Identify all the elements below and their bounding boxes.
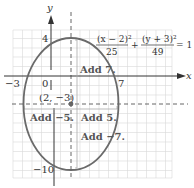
bracket-horizontal	[24, 106, 117, 109]
x-axis-arrow-icon	[177, 73, 186, 79]
eq-term2-numerator: (y + 3)²	[142, 34, 177, 44]
eq-term2-denominator: 49	[152, 47, 164, 57]
tick-x-left: −3	[5, 78, 20, 89]
annotation-add-left: Add −5.	[29, 112, 74, 123]
y-axis-label: y	[46, 2, 53, 13]
center-label: (2, −3)	[39, 92, 74, 103]
origin-label: 0	[42, 78, 48, 89]
eq-plus: +	[131, 40, 139, 50]
annotation-add-down: Add −7.	[80, 131, 125, 142]
annotation-add-right: Add 5.	[80, 112, 117, 123]
x-axis-label: x	[186, 70, 192, 81]
eq-term1-denominator: 25	[106, 47, 118, 57]
ellipse-figure: y x 0 −3 7 4 −10 (2, −3) Add 7. Add −5. …	[0, 0, 194, 188]
tick-y-top: 4	[42, 33, 48, 44]
tick-y-bottom: −10	[33, 164, 54, 175]
annotation-add-up: Add 7.	[79, 64, 116, 75]
eq-term1-numerator: (x − 2)²	[97, 34, 132, 44]
y-axis-arrow-icon	[48, 15, 54, 24]
equation: (x − 2)² 25 + (y + 3)² 49 = 1	[96, 34, 192, 57]
eq-rhs: = 1	[176, 40, 192, 50]
tick-x-right: 7	[118, 78, 124, 89]
